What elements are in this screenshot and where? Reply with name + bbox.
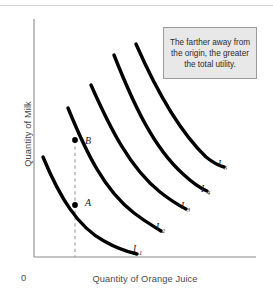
indifference-curve-figure: B A I 1 I 2 I 3 I 4 I 5 The farther away…	[0, 0, 273, 294]
curve-label-i5-sub: 5	[224, 164, 227, 171]
curve-label-i2-sub: 2	[162, 227, 166, 234]
point-b-dot	[72, 137, 78, 143]
curve-label-i4-sub: 4	[207, 189, 211, 196]
curve-label-i3-sub: 3	[186, 206, 190, 213]
origin-label: 0	[21, 273, 26, 283]
callout-box: The farther away from the origin, the gr…	[163, 27, 257, 79]
point-b-label: B	[85, 135, 91, 146]
x-axis-title: Quantity of Orange Juice	[34, 274, 256, 284]
curve-label-i1-sub: 1	[139, 249, 142, 256]
point-a-dot	[72, 202, 78, 208]
callout-text: The farther away from the origin, the gr…	[164, 37, 256, 70]
point-a-label: A	[84, 197, 92, 208]
y-axis-title: Quantity of Milk	[23, 59, 33, 209]
curve-i3	[91, 85, 186, 209]
